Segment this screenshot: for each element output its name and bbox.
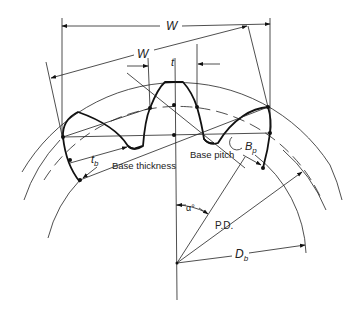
outside-circle-right-tail [330,165,342,200]
pressure-angle-label: α° [186,203,195,213]
tooth-right [263,107,271,168]
tooth-center-fillet-right [204,107,268,144]
pitch-circle [44,106,320,196]
base-diameter-label: Db [235,247,249,263]
root-circle [24,140,60,200]
base-thickness-label: Base thickness [112,160,176,171]
pitch-diameter-label: P.D. [215,220,233,231]
gear-measurement-diagram: W W t tb Base thickness Base pitch Bp [0,0,346,323]
gear-circles [22,83,342,253]
horizontal-chord [63,133,270,137]
outer-ring-right [283,150,326,210]
base-pitch: Base pitch Bp [190,137,261,165]
pressure-angle: α° [176,203,208,214]
base-pitch-symbol: Bp [245,140,257,155]
tooth-center [128,82,214,149]
base-diameter-line-b [249,245,305,253]
tooth-thickness-label: t [171,56,175,68]
base-thickness: tb Base thickness [70,147,176,178]
base-pitch-label: Base pitch [190,149,234,160]
span-w-label: W [166,19,179,33]
base-circle-left [48,180,80,238]
